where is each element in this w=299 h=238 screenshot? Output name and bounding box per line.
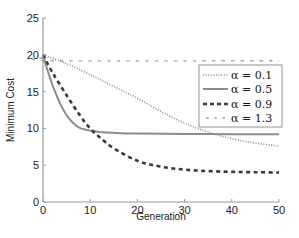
x-tick-label: 50 xyxy=(273,204,285,216)
x-tick-label: 40 xyxy=(226,204,238,216)
x-tick-label: 0 xyxy=(40,204,46,216)
line-chart: 0510152025 01020304050 Generation Minimu… xyxy=(0,0,299,238)
y-tick-label: 20 xyxy=(27,49,39,61)
y-tick-label: 25 xyxy=(27,12,39,24)
legend-label-alpha-1-3: α = 1.3 xyxy=(231,112,272,125)
y-tick-label: 15 xyxy=(27,86,39,98)
legend-label-alpha-0-1: α = 0.1 xyxy=(231,69,272,82)
y-tick-label: 10 xyxy=(27,122,39,134)
legend-label-alpha-0-5: α = 0.5 xyxy=(231,83,272,96)
legend-label-alpha-0-9: α = 0.9 xyxy=(231,98,272,111)
series-line-1-3 xyxy=(33,58,279,61)
y-axis-label: Minimum Cost xyxy=(5,78,16,142)
y-tick-label: 0 xyxy=(33,196,39,208)
legend: α = 0.1 α = 0.5 α = 0.9 α = 1.3 xyxy=(199,65,282,127)
y-tick-label: 5 xyxy=(33,159,39,171)
x-axis-label: Generation xyxy=(136,211,185,222)
x-tick-label: 10 xyxy=(84,204,96,216)
